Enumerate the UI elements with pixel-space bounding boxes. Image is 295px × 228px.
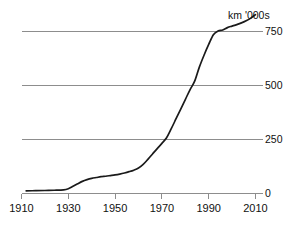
y-axis-tick-stubs [256, 32, 263, 194]
x-tick-label-1910: 1910 [0, 203, 43, 214]
y-tick-label-0: 0 [265, 188, 271, 199]
y-tick-label-750: 750 [265, 26, 283, 37]
x-tick-label-2010: 2010 [234, 203, 277, 214]
y-axis-unit-label: km '000s [228, 10, 270, 21]
x-axis [22, 194, 256, 199]
y-tick-label-250: 250 [265, 134, 283, 145]
chart-canvas [0, 0, 295, 228]
x-tick-label-1970: 1970 [140, 203, 183, 214]
line-chart: km '000s 750 500 250 0 1910 1930 1950 19… [0, 0, 295, 228]
data-line-road-network [26, 15, 255, 191]
x-tick-label-1930: 1930 [47, 203, 90, 214]
y-tick-label-500: 500 [265, 80, 283, 91]
x-tick-label-1990: 1990 [187, 203, 230, 214]
x-tick-label-1950: 1950 [94, 203, 137, 214]
gridlines [22, 32, 256, 140]
